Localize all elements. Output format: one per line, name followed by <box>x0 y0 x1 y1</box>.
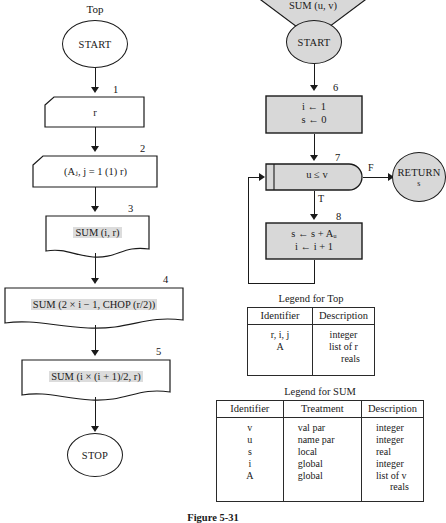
node-2-input: (Aⱼ, j = 1 (1) r) <box>33 155 158 188</box>
legend-sum-header-treatment: Treatment <box>283 401 361 418</box>
arrowhead-to-6 <box>310 85 318 91</box>
connector-5-to-stop <box>95 397 96 429</box>
connector-3-to-4 <box>95 253 96 281</box>
arrowhead-to-5 <box>91 350 99 356</box>
node-3-subprogram-call: SUM (i, r) <box>45 215 150 259</box>
arrowhead-to-stop <box>91 426 99 432</box>
loopback-down <box>314 260 315 284</box>
legend-top-header-identifier: Identifier <box>248 308 313 325</box>
legend-sum-treatments: val par name par local global global <box>283 418 361 502</box>
connector-4-to-5 <box>95 325 96 353</box>
arrowhead-to-4 <box>91 278 99 284</box>
node-number-6: 6 <box>333 82 338 93</box>
table-row: r, i, j A integer list of r reals <box>248 325 375 375</box>
node-6-process: i ← 1 s ← 0 <box>265 95 363 134</box>
legend-top-table: Identifier Description r, i, j A integer… <box>247 307 375 376</box>
node-number-4: 4 <box>163 274 168 285</box>
legend-top-identifiers: r, i, j A <box>248 325 313 375</box>
legend-top-caption: Legend for Top <box>279 293 344 304</box>
legend-sum-caption: Legend for SUM <box>284 386 356 397</box>
sum-start-label: START <box>298 37 331 48</box>
arrowhead-to-2 <box>91 146 99 152</box>
table-row: v u s i A val par name par local global … <box>217 418 424 502</box>
legend-sum-table: Identifier Treatment Description v u s i… <box>216 400 424 502</box>
arrowhead-to-3 <box>91 206 99 212</box>
legend-sum-header-description: Description <box>362 401 424 418</box>
return-terminal: RETURN s <box>392 152 446 202</box>
node-7-loop-test: u ≤ v <box>265 163 363 191</box>
legend-sum-descriptions: integer integer real integer list of v r… <box>362 418 424 502</box>
node-number-1: 1 <box>113 84 118 95</box>
loopback-left <box>248 177 249 284</box>
start-terminal-sum: START <box>286 20 342 64</box>
node-1-input: r <box>45 96 145 128</box>
arrowhead-to-1 <box>91 87 99 93</box>
node-5-subprogram-call: SUM (i × (i + 1)/2, r) <box>21 359 171 404</box>
start-label: START <box>79 39 112 50</box>
loopback-bottom <box>248 283 314 284</box>
branch-label-true: T <box>318 193 324 204</box>
figure-caption: Figure 5-31 <box>187 512 238 523</box>
legend-sum-header-identifier: Identifier <box>217 401 284 418</box>
node-number-7: 7 <box>335 152 340 163</box>
connector-7-false <box>363 177 391 178</box>
left-flow-title: Top <box>87 4 104 16</box>
legend-sum-header-row: Identifier Treatment Description <box>217 401 424 418</box>
node-number-2: 2 <box>140 143 145 154</box>
node-number-8: 8 <box>336 211 341 222</box>
stop-terminal: STOP <box>67 433 123 477</box>
node-8-process: s ← s + Aᵤ i ← i + 1 <box>265 222 363 260</box>
arrowhead-to-7 <box>310 155 318 161</box>
start-terminal-top: START <box>62 20 128 68</box>
return-value: s <box>417 179 420 188</box>
arrowhead-loopback <box>259 173 265 181</box>
legend-top-header-description: Description <box>313 308 375 325</box>
return-label: RETURN <box>397 167 440 178</box>
branch-label-false: F <box>368 162 374 173</box>
node-number-3: 3 <box>128 203 133 214</box>
legend-sum-identifiers: v u s i A <box>217 418 284 502</box>
node-number-5: 5 <box>156 346 161 357</box>
stop-label: STOP <box>82 450 108 461</box>
arrowhead-to-8 <box>310 214 318 220</box>
legend-top-header-row: Identifier Description <box>248 308 375 325</box>
legend-top-descriptions: integer list of r reals <box>313 325 375 375</box>
